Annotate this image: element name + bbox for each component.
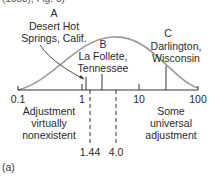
- marker-label: 4.0: [106, 146, 126, 158]
- tick-label: 0.1: [6, 93, 30, 105]
- left-region-label: nonexistent: [14, 129, 84, 141]
- site-b-letter: B: [93, 38, 113, 50]
- site-b-name-2: Tennessee: [72, 62, 134, 74]
- right-region-label: Some: [136, 105, 206, 117]
- site-b-name: La Follete,: [72, 50, 134, 62]
- tick-label: 100: [186, 93, 210, 105]
- site-a-name: Desert Hot: [14, 20, 94, 32]
- site-c-name: Darlington,: [138, 40, 214, 52]
- panel-label: (a): [2, 161, 15, 173]
- site-c-letter: C: [158, 27, 178, 39]
- left-region-label: Adjustment: [14, 105, 84, 117]
- site-a-letter: A: [44, 7, 64, 19]
- site-a-name-2: Springs, Calif.: [14, 32, 94, 44]
- right-region-label: universal: [136, 117, 206, 129]
- tick-label: 1: [76, 93, 88, 105]
- tick-label: 10: [130, 93, 148, 105]
- left-region-label: virtually: [14, 117, 84, 129]
- site-c-name-2: Wisconsin: [138, 52, 214, 64]
- right-region-label: adjustment: [136, 129, 206, 141]
- marker-label: 1.44: [78, 146, 102, 158]
- figure: (1983), Fig. 5) A Desert Hot Springs, Ca…: [0, 0, 214, 178]
